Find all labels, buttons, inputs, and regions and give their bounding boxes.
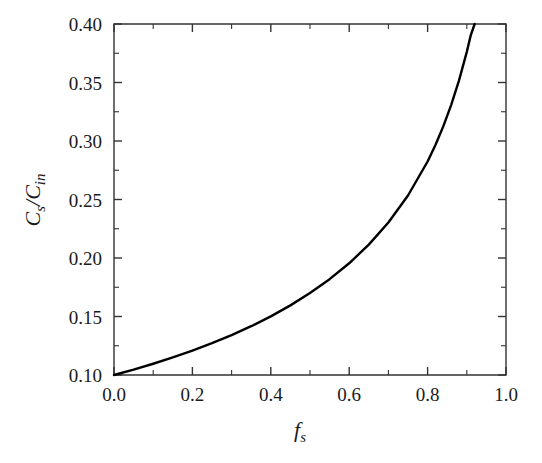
y-axis-title-sub-in: in <box>32 174 48 186</box>
x-tick-label: 0.2 <box>181 384 205 405</box>
x-axis-title-sub-s: s <box>300 429 306 445</box>
y-tick-label: 0.20 <box>69 248 102 269</box>
x-tick-label: 0.8 <box>416 384 440 405</box>
x-tick-label: 1.0 <box>494 384 518 405</box>
y-tick-label: 0.35 <box>69 73 102 94</box>
segregation-curve-chart: 0.100.150.200.250.300.350.40 0.00.20.40.… <box>0 0 542 463</box>
y-axis-title-c1: C <box>20 212 45 227</box>
y-tick-label: 0.10 <box>69 365 102 386</box>
y-tick-label: 0.25 <box>69 190 102 211</box>
y-tick-label: 0.15 <box>69 307 102 328</box>
y-axis-title-slash: /C <box>20 185 45 208</box>
chart-figure: 0.100.150.200.250.300.350.40 0.00.20.40.… <box>0 0 542 463</box>
y-tick-label: 0.30 <box>69 131 102 152</box>
y-tick-label: 0.40 <box>69 14 102 35</box>
x-tick-label: 0.0 <box>102 384 126 405</box>
x-tick-label: 0.4 <box>259 384 283 405</box>
x-tick-label: 0.6 <box>337 384 361 405</box>
